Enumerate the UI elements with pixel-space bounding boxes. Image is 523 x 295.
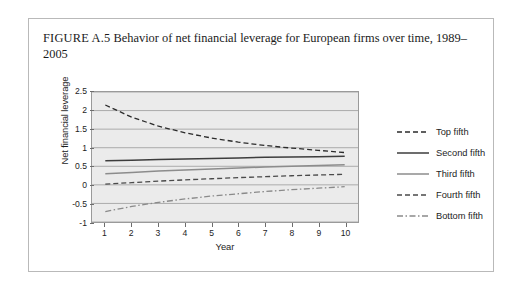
legend-label: Second fifth <box>436 148 485 158</box>
x-axis-tick-label: 9 <box>307 228 331 238</box>
y-axis-tick-label: 1.5 <box>61 124 87 134</box>
y-axis-tick-label: 0 <box>61 180 87 190</box>
legend-line-swatch <box>397 211 429 221</box>
y-axis-tick-mark <box>90 148 94 149</box>
legend-line-swatch <box>397 190 429 200</box>
plot-area <box>91 91 359 223</box>
legend-item[interactable]: Second fifth <box>397 142 505 163</box>
figure-frame: FIGURE A.5 Behavior of net financial lev… <box>28 18 494 272</box>
x-axis-tick-label: 6 <box>226 228 250 238</box>
y-axis-tick-mark <box>90 166 94 167</box>
y-axis-tick-mark <box>90 129 94 130</box>
chart-canvas <box>92 92 358 222</box>
y-axis-tick-label: 2 <box>61 105 87 115</box>
series-line <box>105 156 344 160</box>
legend-item[interactable]: Fourth fifth <box>397 184 505 205</box>
y-axis-tick-label: -0.5 <box>61 199 87 209</box>
series-line <box>105 174 344 184</box>
x-axis-tick-mark <box>238 223 239 227</box>
x-axis-tick-mark <box>319 223 320 227</box>
legend-label: Third fifth <box>436 169 475 179</box>
x-axis-tick-labels: 12345678910 <box>91 228 359 242</box>
y-axis-tick-label: 2.5 <box>61 86 87 96</box>
y-axis-tick-label: 1 <box>61 143 87 153</box>
y-axis-tick-mark <box>90 223 94 224</box>
x-axis-tick-mark <box>265 223 266 227</box>
y-axis-tick-mark <box>90 91 94 92</box>
legend-item[interactable]: Top fifth <box>397 121 505 142</box>
legend-item[interactable]: Bottom fifth <box>397 205 505 226</box>
y-axis-tick-labels: 2.521.510.50-0.5-1 <box>57 91 87 223</box>
legend-label: Bottom fifth <box>436 211 483 221</box>
x-axis-tick-mark <box>212 223 213 227</box>
x-axis-tick-label: 10 <box>334 228 358 238</box>
x-axis-tick-label: 4 <box>173 228 197 238</box>
x-axis-tick-mark <box>346 223 347 227</box>
chart-plot-wrapper: Net financial leverage 2.521.510.50-0.5-… <box>29 19 495 273</box>
series-line <box>105 105 344 153</box>
y-axis-tick-mark <box>90 204 94 205</box>
legend-item[interactable]: Third fifth <box>397 163 505 184</box>
legend-label: Fourth fifth <box>436 190 480 200</box>
x-axis-title: Year <box>91 241 359 252</box>
x-axis-tick-label: 5 <box>200 228 224 238</box>
y-axis-tick-label: -1 <box>61 218 87 228</box>
x-axis-tick-mark <box>292 223 293 227</box>
legend-line-swatch <box>397 169 429 179</box>
x-axis-tick-label: 1 <box>92 228 116 238</box>
x-axis-tick-label: 2 <box>119 228 143 238</box>
x-axis-tick-label: 7 <box>253 228 277 238</box>
chart-legend: Top fifthSecond fifthThird fifthFourth f… <box>397 121 505 226</box>
series-line <box>105 187 344 212</box>
legend-label: Top fifth <box>436 127 469 137</box>
x-axis-tick-label: 3 <box>146 228 170 238</box>
x-axis-tick-mark <box>185 223 186 227</box>
legend-line-swatch <box>397 127 429 137</box>
x-axis-tick-mark <box>131 223 132 227</box>
y-axis-tick-label: 0.5 <box>61 161 87 171</box>
legend-line-swatch <box>397 148 429 158</box>
y-axis-tick-mark <box>90 185 94 186</box>
x-axis-tick-label: 8 <box>280 228 304 238</box>
y-axis-tick-mark <box>90 110 94 111</box>
x-axis-tick-mark <box>104 223 105 227</box>
x-axis-tick-mark <box>158 223 159 227</box>
